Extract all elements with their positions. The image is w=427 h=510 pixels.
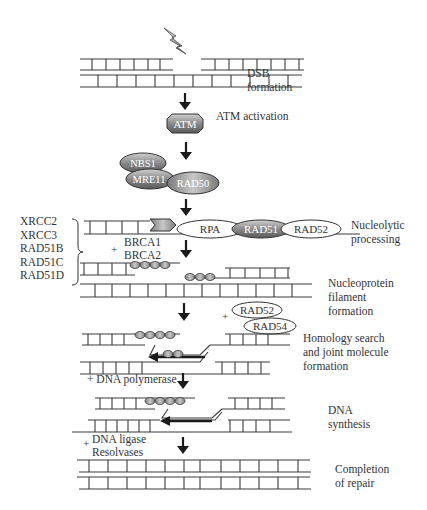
svg-text:RAD52: RAD52 [294,223,328,235]
svg-text:RAD50: RAD50 [177,178,210,189]
lightning-bolt-icon [164,28,186,54]
label-line: filament [328,290,394,304]
label-line: and joint molecule [303,345,389,359]
label-line: ATM activation [216,109,289,123]
label-line: DSB [247,66,292,80]
label-line: formation [303,359,389,373]
svg-text:RAD54: RAD54 [253,320,288,332]
arrow-down-icon [179,93,191,110]
rad52-rad54-plus: + [222,310,228,322]
label-line: Completion [335,462,389,476]
resolvases-label: Resolvases [92,446,146,459]
brca1-label: BRCA1 [124,236,161,249]
paralog-item: XRCC3 [20,229,64,243]
svg-text:RAD52: RAD52 [240,304,274,316]
label-line: of repair [335,476,389,490]
mrn-complex: NBS1 MRE11 RAD50 [120,153,219,194]
ligase-resolvases-list: DNA ligase Resolvases [92,433,146,458]
step-label-nucleoprotein: Nucleoprotein filament formation [328,276,394,318]
dna-polymerase-label: + DNA polymerase [87,372,177,386]
rad51-paralogs-list: XRCC2 XRCC3 RAD51B RAD51C RAD51D [20,215,64,283]
step-label-homology: Homology search and joint molecule forma… [303,331,389,373]
brca-plus: + [111,243,117,255]
label-line: formation [328,304,394,318]
svg-text:NBS1: NBS1 [130,158,156,169]
repaired-dna [77,460,311,489]
label-line: Nucleolytic [351,218,405,232]
label-line: Homology search [303,331,389,345]
label-line: DNA [328,403,370,417]
label-line: Nucleoprotein [328,276,394,290]
brca2-label: BRCA2 [124,249,161,262]
svg-text:ATM: ATM [173,118,196,130]
rad52-protein: RAD52 [281,220,341,238]
arrow-down-icon [180,199,192,216]
label-line: synthesis [328,417,370,431]
paralog-item: RAD51D [20,269,64,283]
rad52-protein-2: RAD52 [232,302,282,318]
joint-molecule-dna [80,334,290,374]
step-label-atm: ATM activation [216,109,289,123]
atm-protein: ATM [167,114,203,133]
step-label-synthesis: DNA synthesis [328,403,370,431]
svg-text:MRE11: MRE11 [133,174,166,185]
paralog-item: XRCC2 [20,215,64,229]
arrow-down-icon [177,437,189,454]
arrow-down-icon [178,303,190,321]
paralog-item: RAD51C [20,256,64,270]
brca-list: BRCA1 BRCA2 [124,236,161,262]
step-label-completion: Completion of repair [335,462,389,490]
label-line: formation [247,80,292,94]
dna-ligase-label: DNA ligase [92,433,146,446]
nuclease-arrowhead [150,219,176,231]
svg-text:RPA: RPA [200,223,220,235]
arrow-down-icon [177,373,189,389]
arrow-down-icon [180,142,192,160]
svg-text:RAD51: RAD51 [244,223,278,235]
step-label-nucleolytic: Nucleolytic processing [351,218,405,246]
ligase-plus: + [83,437,89,449]
rad54-protein: RAD54 [244,318,296,334]
label-line: processing [351,232,405,246]
rad51-filament-beads [130,262,215,281]
paralog-item: RAD51B [20,242,64,256]
step-label-dsb: DSB formation [247,66,292,94]
filament-dna [80,263,312,297]
arrow-down-icon [180,240,192,258]
